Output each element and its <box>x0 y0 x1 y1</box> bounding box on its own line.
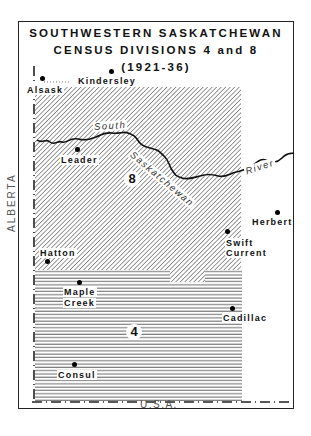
place-creek: Creek <box>63 298 96 308</box>
alberta-label: ALBERTA <box>6 173 17 232</box>
place-maple: Maple <box>63 287 97 297</box>
division-4-label: 4 <box>126 324 142 340</box>
place-kindersley: Kindersley <box>77 76 137 86</box>
place-current: Current <box>225 248 268 258</box>
kindersley-marker <box>109 69 114 74</box>
herbert-marker <box>275 210 280 215</box>
place-herbert: Herbert <box>251 217 293 227</box>
consul-marker <box>72 362 77 367</box>
swift-current-marker <box>225 229 230 234</box>
place-hatton: Hatton <box>39 248 77 258</box>
alsask-marker <box>40 76 45 81</box>
place-alsask: Alsask <box>26 85 64 95</box>
usa-label: U.S.A. <box>140 399 178 410</box>
hatton-marker <box>45 259 50 264</box>
place-swift: Swift <box>225 238 255 248</box>
cadillac-marker <box>230 306 235 311</box>
place-leader: Leader <box>60 155 99 165</box>
maple-creek-marker <box>77 280 82 285</box>
place-consul: Consul <box>57 370 97 380</box>
leader-marker <box>75 147 80 152</box>
place-cadillac: Cadillac <box>222 313 268 323</box>
division-8-label: 8 <box>124 171 140 187</box>
